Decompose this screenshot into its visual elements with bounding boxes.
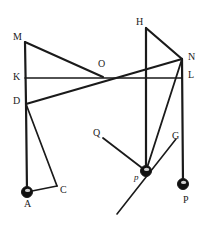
label-A: A bbox=[24, 199, 31, 209]
ball-P-highlight bbox=[181, 181, 186, 184]
label-L: L bbox=[188, 70, 194, 80]
label-H: H bbox=[136, 17, 143, 27]
label-G: G bbox=[172, 131, 179, 141]
label-M: M bbox=[13, 32, 22, 42]
label-D: D bbox=[13, 96, 20, 106]
ball-A-highlight bbox=[25, 189, 30, 192]
ball-p-highlight bbox=[144, 168, 149, 171]
label-Q: Q bbox=[93, 128, 100, 138]
bar-M-O bbox=[25, 42, 103, 77]
diagram-canvas: MKDACOHNLQGpP bbox=[0, 0, 211, 226]
bar-N-L-P bbox=[182, 59, 183, 184]
bar-H-N bbox=[146, 28, 182, 59]
ball-A bbox=[22, 187, 33, 198]
label-P: P bbox=[183, 195, 189, 205]
bar-M-K-D bbox=[25, 42, 26, 104]
label-K: K bbox=[13, 72, 20, 82]
label-N: N bbox=[188, 52, 195, 62]
ball-P bbox=[178, 179, 189, 190]
label-C: C bbox=[60, 185, 67, 195]
ball-p bbox=[141, 166, 152, 177]
label-O: O bbox=[98, 59, 105, 69]
label-p: p bbox=[134, 173, 139, 182]
bar-Q-p bbox=[103, 138, 146, 171]
segments-layer bbox=[25, 28, 183, 214]
balls-layer bbox=[22, 166, 189, 198]
bar-D-C bbox=[26, 104, 57, 186]
linkage-diagram-svg bbox=[0, 0, 211, 226]
bar-D-A bbox=[26, 104, 27, 192]
